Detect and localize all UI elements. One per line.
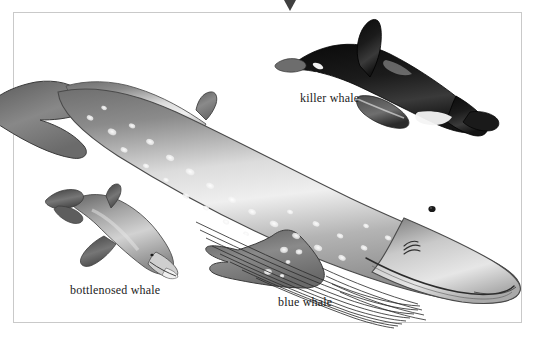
- bottlenosed-whale-eye: [150, 254, 153, 257]
- blue-whale-dorsal-fin: [196, 92, 217, 120]
- killer-whale-rostrum: [275, 59, 306, 73]
- bottlenosed-whale-figure: [45, 184, 178, 279]
- bottlenosed-whale-pectoral-flipper: [80, 236, 116, 266]
- killer-whale-figure: [275, 19, 499, 136]
- figure-label-bottlenosed-whale: bottlenosed whale: [70, 283, 160, 298]
- illustration-plate: killer whale bottlenosed whale blue whal…: [0, 0, 545, 338]
- figure-label-killer-whale: killer whale: [300, 91, 359, 106]
- blue-whale-eye: [428, 206, 435, 212]
- figure-label-blue-whale: blue whale: [278, 295, 332, 310]
